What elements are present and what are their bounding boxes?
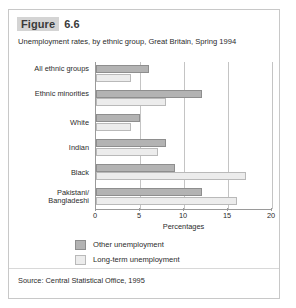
bar [96, 139, 166, 147]
bar [96, 164, 175, 172]
x-tick-label: 20 [267, 211, 275, 220]
x-axis-ticks: 05101520 [95, 211, 272, 222]
figure-number: 6.6 [59, 17, 79, 31]
legend-item: Long-term unemployment [75, 253, 180, 266]
x-tick-label: 0 [93, 211, 97, 220]
figure-subtitle: Unemployment rates, by ethnic group, Gre… [18, 37, 268, 47]
category-label: Indian [17, 144, 89, 153]
category-label: Black [17, 169, 89, 178]
category-label: Pakistani/ Bangladeshi [17, 189, 89, 206]
bar [96, 188, 202, 196]
source-divider [9, 268, 279, 269]
bar [96, 65, 149, 73]
bar [96, 90, 202, 98]
gridline-10 [184, 62, 185, 209]
legend-swatch [75, 240, 86, 250]
legend-item: Other unemployment [75, 238, 180, 251]
bar [96, 98, 166, 106]
legend-label: Long-term unemployment [93, 255, 180, 264]
x-axis-title: Percentages [95, 222, 272, 231]
bar [96, 123, 131, 131]
figure-header: Figure 6.6 [17, 17, 80, 31]
chart-legend: Other unemploymentLong-term unemployment [75, 238, 180, 268]
legend-swatch [75, 255, 86, 265]
gridline-20 [272, 62, 273, 209]
chart-plot-area [95, 62, 272, 210]
bar [96, 148, 158, 156]
x-tick-label: 5 [137, 211, 141, 220]
bar [96, 172, 246, 180]
category-label: Ethnic minorities [17, 90, 89, 99]
x-tick-label: 15 [223, 211, 231, 220]
source-note: Source: Central Statistical Office, 1995 [18, 276, 145, 285]
category-axis-labels: All ethnic groupsEthnic minoritiesWhiteI… [18, 62, 92, 210]
bar [96, 197, 237, 205]
chart-plot-wrapper: All ethnic groupsEthnic minoritiesWhiteI… [18, 62, 272, 232]
category-label: White [17, 119, 89, 128]
x-tick-label: 10 [179, 211, 187, 220]
figure-label: Figure [17, 17, 59, 31]
bar [96, 74, 131, 82]
bar [96, 114, 140, 122]
gridline-15 [228, 62, 229, 209]
gridline-5 [140, 62, 141, 209]
figure-card: Figure 6.6 Unemployment rates, by ethnic… [8, 9, 280, 299]
legend-label: Other unemployment [93, 240, 164, 249]
category-label: All ethnic groups [17, 65, 89, 74]
